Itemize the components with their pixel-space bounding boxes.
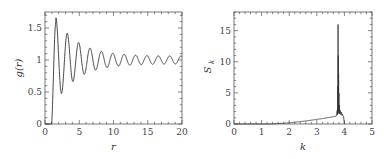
y-tick-label: 1: [36, 55, 42, 65]
y-tick-label: 0: [225, 119, 231, 129]
x-tick-label: 10: [108, 127, 120, 137]
figure: 0 5 10 15 20 0 0.5 1 1.5 r g(r) 0 1 2 3 …: [0, 0, 384, 159]
x-axis-label: k: [300, 141, 306, 152]
x-tick-label: 1: [259, 127, 265, 137]
x-tick-label: 20: [176, 127, 188, 137]
x-tick-label: 3: [314, 127, 320, 137]
x-tick-label: 5: [76, 127, 82, 137]
s-k-curve: [234, 24, 344, 124]
x-tick-label: 15: [142, 127, 154, 137]
left-plot: 0 5 10 15 20 0 0.5 1 1.5 r g(r): [13, 12, 188, 152]
y-tick-label: 0: [36, 119, 42, 129]
y-tick-label: 1.5: [28, 23, 43, 33]
right-plot-frame: [234, 12, 372, 124]
y-tick-label: 0.5: [28, 87, 43, 97]
g-r-curve: [45, 18, 182, 124]
left-plot-ticks: [45, 12, 182, 124]
y-axis-label-main: S: [202, 66, 213, 73]
x-tick-label: 2: [286, 127, 292, 137]
x-tick-label: 5: [369, 127, 375, 137]
x-axis-label: r: [111, 141, 117, 152]
y-axis-label-subscript: k: [208, 60, 216, 64]
left-x-tick-labels: 0 5 10 15 20: [42, 127, 188, 137]
y-tick-label: 15: [220, 26, 232, 36]
y-axis-label: S k: [202, 60, 216, 74]
right-plot-ticks: [234, 12, 372, 124]
x-tick-label: 0: [231, 127, 237, 137]
y-tick-label: 10: [220, 57, 232, 67]
right-plot: 0 1 2 3 4 5 0 5 10 15 k S k: [202, 12, 375, 152]
y-axis-label: g(r): [13, 58, 24, 77]
x-tick-label: 4: [342, 127, 348, 137]
right-x-tick-labels: 0 1 2 3 4 5: [231, 127, 375, 137]
right-y-tick-labels: 0 5 10 15: [220, 26, 232, 129]
left-plot-frame: [45, 12, 182, 124]
y-tick-label: 5: [225, 88, 231, 98]
x-tick-label: 0: [42, 127, 48, 137]
left-y-tick-labels: 0 0.5 1 1.5: [28, 23, 43, 129]
